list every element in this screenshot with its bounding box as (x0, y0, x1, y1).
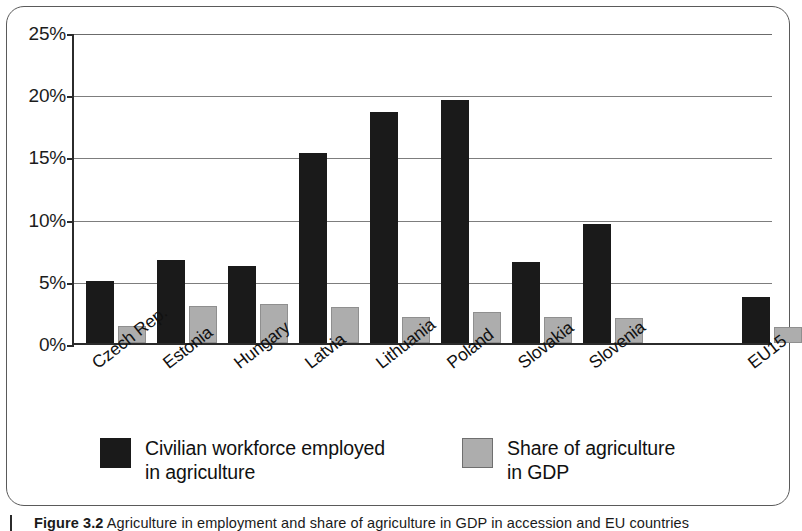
y-axis-tick-label: 25% (0, 23, 66, 45)
bar-slovakia-series1 (512, 262, 540, 343)
gridline-25% (74, 34, 772, 35)
caption-rule (10, 515, 12, 531)
bar-slovenia-series1 (583, 224, 611, 343)
bar-hungary-series1 (228, 266, 256, 343)
y-axis-tick-label: 5% (0, 272, 66, 294)
y-tick-mark (67, 345, 74, 347)
plot-area (72, 34, 772, 345)
legend-entry-workforce: Civilian workforce employedin agricultur… (100, 436, 385, 484)
bar-estonia-series1 (157, 260, 185, 343)
y-tick-mark (67, 221, 74, 223)
gridline-15% (74, 158, 772, 159)
bar-eu15-series1 (742, 297, 770, 343)
y-tick-mark (67, 96, 74, 98)
legend-label-workforce: Civilian workforce employedin agricultur… (145, 436, 385, 484)
y-axis-tick-label: 10% (0, 210, 66, 232)
y-tick-mark (67, 34, 74, 36)
chart-legend: Civilian workforce employedin agricultur… (72, 432, 772, 492)
bar-latvia-series1 (299, 153, 327, 343)
dark-swatch-icon (100, 438, 131, 468)
gridline-10% (74, 221, 772, 222)
legend-entry-gdp: Share of agriculturein GDP (462, 436, 675, 484)
y-axis-tick-label: 15% (0, 147, 66, 169)
caption-text: Figure 3.2 Agriculture in employment and… (34, 515, 689, 531)
gridline-20% (74, 96, 772, 97)
y-axis-tick-label: 0% (0, 334, 66, 356)
y-axis-tick-label: 20% (0, 85, 66, 107)
bar-lithuania-series1 (370, 112, 398, 343)
y-tick-mark (67, 158, 74, 160)
legend-label-gdp: Share of agriculturein GDP (507, 436, 675, 484)
figure-caption: Figure 3.2 Agriculture in employment and… (0, 515, 796, 531)
light-swatch-icon (462, 438, 493, 468)
bar-czech-rep--series1 (86, 281, 114, 343)
bar-poland-series1 (441, 100, 469, 343)
y-tick-mark (67, 283, 74, 285)
